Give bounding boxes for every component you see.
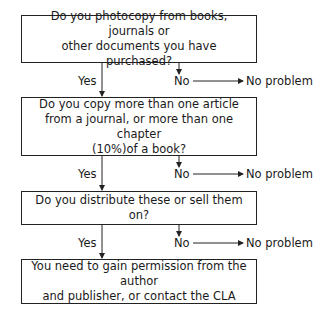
no-label-1: No (174, 75, 190, 88)
question-3-line-1: Do you distribute these or sell them on? (28, 193, 250, 223)
question-box-1: Do you photocopy from books, journals or… (21, 15, 257, 63)
no-problem-outcome-3: No problem (246, 237, 313, 250)
question-box-2: Do you copy more than one article from a… (21, 97, 257, 156)
yes-label-3: Yes (78, 237, 97, 250)
final-line-2: and publisher, or contact the CLA (28, 289, 250, 304)
question-2-line-1: Do you copy more than one article (28, 97, 250, 112)
question-2-line-3: (10%)of a book? (28, 142, 250, 157)
final-line-1: You need to gain permission from the aut… (28, 259, 250, 289)
question-1-line-2: other documents you have purchased? (28, 39, 250, 69)
no-problem-outcome-2: No problem (246, 168, 313, 181)
no-label-3: No (174, 237, 190, 250)
yes-label-2: Yes (78, 168, 97, 181)
question-2-line-2: from a journal, or more than one chapter (28, 112, 250, 142)
final-outcome-box: You need to gain permission from the aut… (21, 259, 257, 304)
no-problem-outcome-1: No problem (246, 75, 313, 88)
yes-label-1: Yes (78, 75, 97, 88)
question-1-line-1: Do you photocopy from books, journals or (28, 9, 250, 39)
question-box-3: Do you distribute these or sell them on? (21, 191, 257, 225)
no-label-2: No (174, 168, 190, 181)
